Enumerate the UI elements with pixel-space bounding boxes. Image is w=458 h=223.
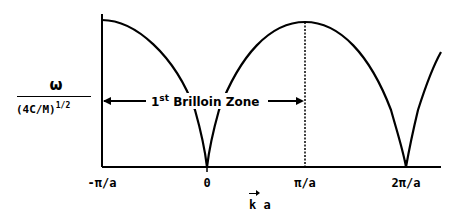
y-label-numerator: ω (36, 76, 76, 94)
tick-label-pi: π/a (294, 176, 316, 190)
x-axis-label: k a (249, 198, 271, 212)
y-label-denominator: (4C/M)1/2 (16, 101, 70, 116)
y-label-fraction-bar (17, 96, 91, 97)
zone-arrow-right-head (296, 97, 304, 105)
x-label-suffix: a (256, 198, 270, 212)
k-vector-symbol: k (249, 198, 256, 212)
bz-text: Brilloin Zone (169, 95, 259, 109)
bz-ordinal-suffix: st (159, 93, 169, 103)
tick-label-zero: 0 (203, 176, 210, 190)
tick-label-2pi: 2π/a (392, 176, 421, 190)
y-label-exponent: 1/2 (56, 101, 70, 110)
y-label-denominator-base: (4C/M) (16, 103, 56, 116)
brillouin-zone-label: 1st Brilloin Zone (148, 93, 262, 109)
zone-arrow-left-head (103, 97, 111, 105)
tick-label-neg-pi: -π/a (88, 176, 117, 190)
